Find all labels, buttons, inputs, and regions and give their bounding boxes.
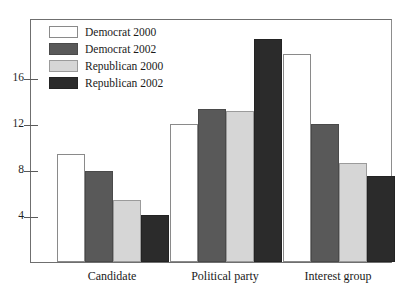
- bar-democrat-2000[interactable]: [57, 154, 85, 262]
- bar-republican-2000[interactable]: [339, 163, 367, 262]
- y-axis-tick: [24, 125, 31, 126]
- bar-chart-figure: Democrat 2000Democrat 2002Republican 200…: [0, 0, 407, 295]
- y-axis-tick-inner: [31, 217, 38, 218]
- bar-republican-2000[interactable]: [226, 111, 254, 262]
- bar-republican-2002[interactable]: [254, 39, 282, 262]
- bar-democrat-2000[interactable]: [283, 54, 311, 262]
- bar-republican-2002[interactable]: [141, 215, 169, 262]
- y-axis-tick: [24, 217, 31, 218]
- y-axis-tick-inner: [31, 79, 38, 80]
- y-axis-tick-label: 8: [0, 164, 24, 176]
- bar-democrat-2002[interactable]: [311, 124, 339, 262]
- bar-group: [57, 20, 169, 262]
- y-axis-tick-inner: [31, 171, 38, 172]
- y-axis-tick-label: 4: [0, 210, 24, 222]
- x-axis-label-3: Interest group: [252, 269, 407, 283]
- y-axis-tick-label: 16: [0, 72, 24, 84]
- bar-republican-2000[interactable]: [113, 200, 141, 262]
- y-axis-tick-label: 12: [0, 118, 24, 130]
- bar-republican-2002[interactable]: [367, 176, 395, 262]
- bar-democrat-2000[interactable]: [170, 124, 198, 262]
- bar-democrat-2002[interactable]: [85, 171, 113, 262]
- caption-remnant: [14, 0, 194, 9]
- bar-group: [283, 20, 395, 262]
- y-axis-tick: [24, 171, 31, 172]
- bar-democrat-2002[interactable]: [198, 109, 226, 262]
- y-axis-tick: [24, 79, 31, 80]
- y-axis-tick-inner: [31, 125, 38, 126]
- plot-frame: Democrat 2000Democrat 2002Republican 200…: [30, 19, 392, 263]
- plot-area: Democrat 2000Democrat 2002Republican 200…: [31, 20, 391, 262]
- bar-group: [170, 20, 282, 262]
